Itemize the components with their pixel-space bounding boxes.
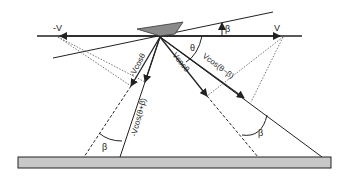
neg-v-cos-theta-plus-beta-label: -Vcos(θ+β) xyxy=(129,97,148,138)
platform-wedge xyxy=(137,22,183,36)
neg-v-cos-theta-label: -Vcosθ xyxy=(128,51,148,78)
dashed-right xyxy=(207,96,258,157)
dotted-projection xyxy=(251,37,283,102)
beta-top-label: β xyxy=(225,24,230,34)
neg-v-label: -V xyxy=(53,23,62,33)
beta-left-arc xyxy=(99,133,122,141)
ground-bar xyxy=(18,157,331,168)
theta-label: θ xyxy=(190,43,195,53)
beta-left-label: β xyxy=(102,142,107,152)
geometry-diagram: -V V β θ -Vcosθ Vcosθ Vcos(θ−β) -Vcos(θ+… xyxy=(0,0,347,177)
beta-right-label: β xyxy=(258,128,263,138)
v-label: V xyxy=(274,23,280,33)
v-cos-theta-minus-beta-label: Vcos(θ−β) xyxy=(201,51,236,81)
beta-right-arc xyxy=(242,115,267,135)
v-cos-theta-label: Vcosθ xyxy=(170,51,191,74)
